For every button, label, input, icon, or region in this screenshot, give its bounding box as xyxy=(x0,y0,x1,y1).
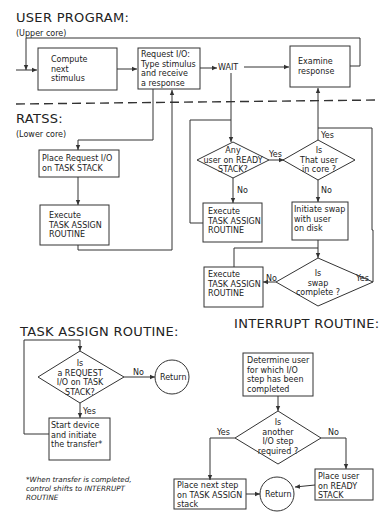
swap-yes: Yes xyxy=(356,274,369,284)
examine-label: Examine response xyxy=(298,57,334,76)
place-user-label: Place user on READY STACK xyxy=(318,472,359,501)
interrupt-title: INTERRUPT ROUTINE: xyxy=(234,319,379,329)
task-decision-label: Is a REQUEST I/O on TASK STACK? xyxy=(50,359,110,397)
in-core-no: No xyxy=(321,186,332,196)
ratss-subtitle: (Lower core) xyxy=(16,130,66,140)
user-program-title: USER PROGRAM: xyxy=(16,13,129,23)
user-program-subtitle: (Upper core) xyxy=(16,29,66,39)
swap-complete-label: Is swap complete ? xyxy=(290,269,346,298)
in-core-label: Is That user in core ? xyxy=(288,146,350,175)
start-device-label: Start device and initiate the transfer* xyxy=(51,421,102,450)
task-yes: Yes xyxy=(83,407,96,417)
swap-no: No xyxy=(266,274,277,284)
execute2-label: Execute TASK ASSIGN ROUTINE xyxy=(208,207,261,236)
wait-label: WAIT xyxy=(218,63,238,73)
interrupt-yes: Yes xyxy=(217,428,230,438)
in-core-yes: Yes xyxy=(321,131,334,141)
execute3-label: Execute TASK ASSIGN ROUTINE xyxy=(208,270,261,299)
task-assign-title: TASK ASSIGN ROUTINE: xyxy=(20,327,179,337)
task-return-label: Return xyxy=(160,373,187,383)
place-request-label: Place Request I/O on TASK STACK xyxy=(42,154,112,173)
compute-label: Compute next stimulus xyxy=(51,55,87,84)
any-user-yes: Yes xyxy=(269,150,282,160)
initiate-swap-label: Initiate swap with user on disk xyxy=(294,205,345,234)
ratss-title: RATSS: xyxy=(16,114,63,124)
interrupt-return-label: Return xyxy=(265,490,292,500)
footnote: *When transfer is completed, control shi… xyxy=(26,475,132,502)
any-user-no: No xyxy=(237,186,248,196)
execute1-label: Execute TASK ASSIGN ROUTINE xyxy=(49,211,102,240)
request-label: Request I/O: Type stimulus and receive a… xyxy=(141,50,196,88)
task-no: No xyxy=(133,368,144,378)
place-next-label: Place next step on TASK ASSIGN stack xyxy=(177,481,242,510)
any-user-label: Any user on READY STACK? xyxy=(199,146,267,175)
interrupt-no: No xyxy=(328,428,339,438)
interrupt-decision-label: Is another I/O step required ? xyxy=(250,418,306,456)
determine-label: Determine user for which I/O step has be… xyxy=(247,356,309,394)
